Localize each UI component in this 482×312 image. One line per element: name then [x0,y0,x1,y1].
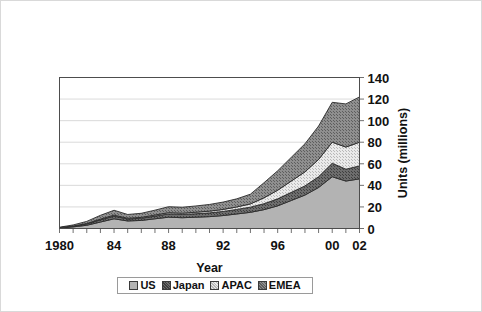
y-axis-title: Units (millions) [396,108,410,198]
legend-swatch-japan-icon [162,281,171,290]
x-tick-label: 92 [216,238,230,253]
legend-item-apac[interactable]: APAC [210,280,251,291]
legend-item-emea[interactable]: EMEA [258,280,301,291]
legend-item-us[interactable]: US [129,280,155,291]
legend-swatch-us-icon [129,281,138,290]
legend-label: US [140,280,155,291]
y-tick-label: 120 [368,92,390,107]
chart-legend: USJapanAPACEMEA [117,277,313,294]
y-tick-label: 80 [368,135,382,150]
x-axis-ticks [60,229,360,234]
y-tick-label: 140 [368,71,390,86]
legend-label: EMEA [269,280,301,291]
stacked-area-chart: 020406080100120140 1980848892960002 Year… [1,1,482,312]
legend-label: Japan [173,280,205,291]
y-axis-ticks [360,78,365,229]
x-tick-label: 84 [107,238,122,253]
x-tick-label: 88 [161,238,175,253]
x-axis-title: Year [196,261,223,275]
x-tick-label: 96 [270,238,284,253]
y-tick-label: 60 [368,157,382,172]
x-axis-tick-labels: 1980848892960002 [45,238,367,253]
y-tick-label: 20 [368,200,382,215]
legend-item-japan[interactable]: Japan [162,280,205,291]
chart-frame: 020406080100120140 1980848892960002 Year… [0,0,482,312]
x-tick-label: 1980 [45,238,74,253]
legend-swatch-emea-icon [258,281,267,290]
y-tick-label: 0 [368,222,375,237]
y-axis-tick-labels: 020406080100120140 [368,71,390,237]
x-tick-label: 02 [352,238,366,253]
x-tick-label: 00 [325,238,339,253]
legend-swatch-apac-icon [210,281,219,290]
chart-svg: 020406080100120140 1980848892960002 Year… [1,1,482,312]
y-tick-label: 100 [368,114,390,129]
y-tick-label: 40 [368,178,382,193]
area-series-group [60,97,360,229]
legend-label: APAC [221,280,251,291]
